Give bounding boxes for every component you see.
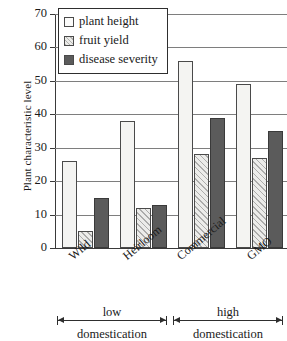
y-axis-tick xyxy=(50,81,55,82)
legend-item-fruit-yield: fruit yield xyxy=(64,31,162,50)
legend-label-plant-height: plant height xyxy=(79,15,138,28)
bracket-label-line2: domestication xyxy=(57,328,167,341)
bracket-label-line1: low xyxy=(57,306,167,319)
y-axis-tick xyxy=(50,181,55,182)
bracket-high xyxy=(173,320,283,321)
bar-heirloom-plant-height xyxy=(120,121,135,248)
y-axis-tick-label: 20 xyxy=(13,174,47,187)
gridline xyxy=(55,114,287,115)
bracket-label-high: highdomestication xyxy=(173,306,283,319)
y-axis-tick-label: 10 xyxy=(13,208,47,221)
bar-wild-disease-severity xyxy=(94,198,109,248)
legend-label-disease-severity: disease severity xyxy=(79,53,158,66)
bar-gmo-disease-severity xyxy=(268,131,283,248)
legend-swatch-disease-severity xyxy=(64,55,74,65)
y-axis-tick-label: 70 xyxy=(13,7,47,20)
y-axis-tick xyxy=(50,47,55,48)
y-axis-tick xyxy=(50,215,55,216)
y-axis-tick xyxy=(50,14,55,15)
legend-swatch-plant-height xyxy=(64,17,74,27)
bar-wild-plant-height xyxy=(62,161,77,248)
bracket-label-low: lowdomestication xyxy=(57,306,167,319)
y-axis-tick xyxy=(50,148,55,149)
legend: plant height fruit yield disease severit… xyxy=(58,8,168,74)
legend-item-plant-height: plant height xyxy=(64,12,162,31)
y-axis-tick xyxy=(50,114,55,115)
y-axis-tick xyxy=(50,248,55,249)
bar-commercial-plant-height xyxy=(178,61,193,248)
bar-chart: Plant characteristic level 0102030405060… xyxy=(0,0,287,341)
y-axis-tick-label: 40 xyxy=(13,107,47,120)
legend-swatch-fruit-yield xyxy=(64,36,74,46)
bar-gmo-plant-height xyxy=(236,84,251,248)
y-axis-tick-label: 30 xyxy=(13,141,47,154)
gridline xyxy=(55,81,287,82)
y-axis-tick-label: 0 xyxy=(13,241,47,254)
gridline xyxy=(55,148,287,149)
y-axis-tick-label: 50 xyxy=(13,74,47,87)
bracket-label-line1: high xyxy=(173,306,283,319)
bracket-low xyxy=(57,320,167,321)
bracket-label-line2: domestication xyxy=(173,328,283,341)
legend-item-disease-severity: disease severity xyxy=(64,50,162,69)
legend-label-fruit-yield: fruit yield xyxy=(79,34,129,47)
y-axis-tick-label: 60 xyxy=(13,40,47,53)
